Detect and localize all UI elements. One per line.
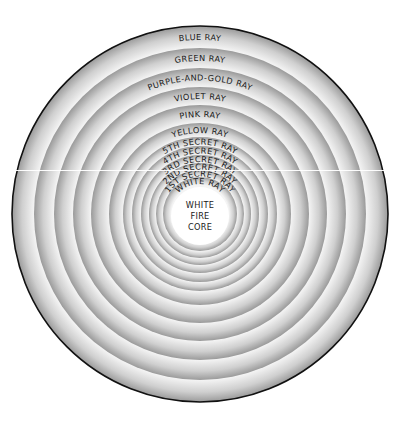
core-label-line-2: FIRE bbox=[190, 211, 209, 221]
core-label-line-1: WHITE bbox=[186, 200, 214, 210]
scan-line-artifact bbox=[0, 170, 401, 171]
concentric-rays-figure: BLUE RAYGREEN RAYPURPLE-AND-GOLD RAYVIOL… bbox=[0, 0, 401, 424]
rays-diagram: BLUE RAYGREEN RAYPURPLE-AND-GOLD RAYVIOL… bbox=[0, 0, 401, 424]
core-label-line-3: CORE bbox=[188, 222, 212, 232]
white-fire-core: WHITE FIRE CORE bbox=[171, 187, 229, 245]
